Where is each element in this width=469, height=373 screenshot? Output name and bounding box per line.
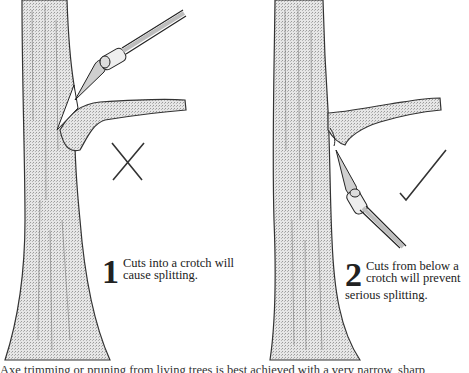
branch-right xyxy=(328,98,441,145)
axe-left xyxy=(75,10,186,100)
illustration xyxy=(0,0,469,373)
check-mark-icon xyxy=(400,150,446,200)
branch-left xyxy=(60,99,186,150)
caption-1-line2: cause splitting. xyxy=(123,268,198,282)
panel-number-1: 1 xyxy=(102,258,119,286)
cross-mark-icon xyxy=(112,143,144,180)
caption-2-line2: crotch will prevent xyxy=(366,271,460,285)
tree-left xyxy=(5,0,110,360)
footer-text-clipped: Axe trimming or pruning from living tree… xyxy=(0,362,469,373)
panel-number-2: 2 xyxy=(345,261,362,289)
caption-panel-2: 2 Cuts from below a crotch will prevent … xyxy=(345,260,469,301)
axe-right xyxy=(336,150,406,248)
caption-panel-1: 1 Cuts into a crotch will cause splittin… xyxy=(102,257,242,286)
caption-2-line3: serious splitting. xyxy=(345,289,469,301)
